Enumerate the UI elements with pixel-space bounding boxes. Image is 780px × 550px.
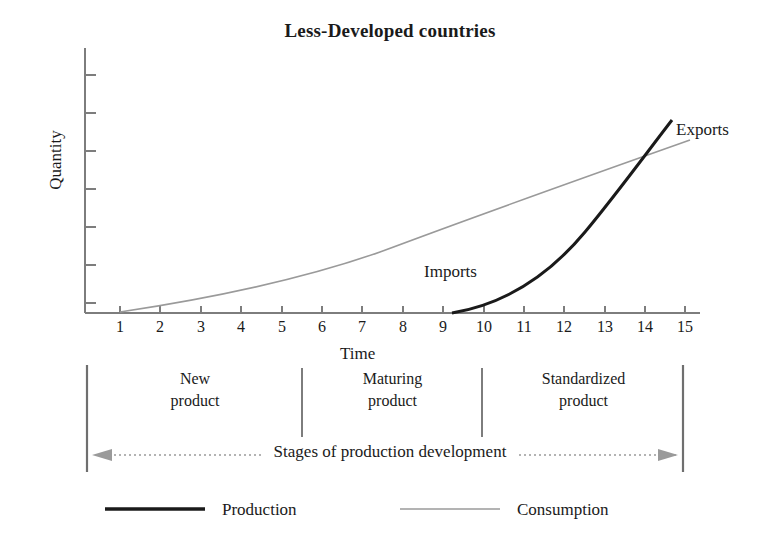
plot-area — [0, 0, 780, 550]
x-tick-label: 4 — [226, 318, 256, 336]
stage-standardized-product: Standardized product — [486, 368, 681, 411]
stage-label-line2: product — [486, 390, 681, 412]
stage-label-line2: product — [305, 390, 480, 412]
x-tick-label: 10 — [469, 318, 499, 336]
stage-label-line2: product — [90, 390, 300, 412]
chart-figure: Less-Developed countries Quantity Time — [0, 0, 780, 550]
curve-label-exports: Exports — [676, 120, 729, 140]
stage-new-product: New product — [90, 368, 300, 411]
production-curve — [452, 120, 672, 313]
x-tick-label: 11 — [509, 318, 539, 336]
stage-label-line1: Standardized — [486, 368, 681, 390]
legend-label-production: Production — [222, 500, 297, 520]
stage-label-line1: Maturing — [305, 368, 480, 390]
stages-caption-text: Stages of production development — [264, 442, 517, 461]
x-tick-label: 8 — [388, 318, 418, 336]
stage-maturing-product: Maturing product — [305, 368, 480, 411]
x-tick-label: 1 — [105, 318, 135, 336]
x-tick-label: 15 — [670, 318, 700, 336]
x-tick-label: 7 — [347, 318, 377, 336]
x-axis-ticks — [120, 306, 685, 313]
legend-label-consumption: Consumption — [517, 500, 609, 520]
x-tick-label: 2 — [145, 318, 175, 336]
consumption-curve — [120, 140, 690, 312]
x-tick-label: 3 — [186, 318, 216, 336]
x-tick-label: 9 — [428, 318, 458, 336]
x-tick-label: 6 — [307, 318, 337, 336]
stages-caption: Stages of production development — [0, 442, 780, 462]
x-tick-label: 5 — [267, 318, 297, 336]
x-tick-label: 12 — [549, 318, 579, 336]
x-tick-label: 13 — [590, 318, 620, 336]
stage-label-line1: New — [90, 368, 300, 390]
curve-label-imports: Imports — [424, 262, 477, 282]
x-tick-label: 14 — [630, 318, 660, 336]
